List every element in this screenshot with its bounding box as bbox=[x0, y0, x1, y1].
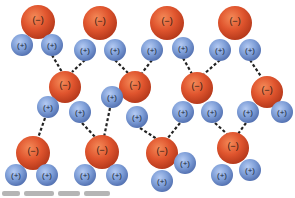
negative-charge-label: (−) bbox=[96, 145, 107, 155]
positive-charge-label: (+) bbox=[107, 93, 117, 102]
positive-charge-label: (+) bbox=[157, 177, 167, 186]
figure-caption-illegible bbox=[2, 188, 122, 198]
positive-charge-label: (+) bbox=[217, 171, 227, 180]
water-molecule-bot-4: (−)(+)(+) bbox=[211, 132, 261, 186]
hydrogen-bond-dashed-line bbox=[142, 60, 152, 73]
hydrogen-bond-dashed-line bbox=[183, 58, 192, 74]
hydrogen-bond-dashed-line bbox=[250, 60, 262, 78]
positive-charge-label: (+) bbox=[80, 46, 90, 55]
blurred-caption-word bbox=[24, 191, 54, 196]
positive-charge-label: (+) bbox=[178, 44, 188, 53]
negative-charge-label: (−) bbox=[94, 16, 105, 26]
negative-charge-label: (−) bbox=[129, 80, 140, 90]
blurred-caption-word bbox=[2, 191, 20, 196]
positive-charge-label: (+) bbox=[132, 113, 142, 122]
water-molecule-bot-2: (−)(+)(+) bbox=[74, 135, 128, 186]
water-molecule-top-3: (−)(+)(+) bbox=[141, 6, 194, 61]
blurred-caption-word bbox=[84, 191, 110, 196]
water-molecule-mid-3: (−)(+)(+) bbox=[172, 72, 223, 123]
water-molecule-mid-1: (−)(+)(+) bbox=[37, 71, 91, 123]
blurred-caption-word bbox=[58, 191, 80, 196]
positive-charge-label: (+) bbox=[47, 41, 57, 50]
positive-charge-label: (+) bbox=[277, 108, 287, 117]
hydrogen-bond-dashed-line bbox=[82, 123, 96, 138]
positive-charge-label: (+) bbox=[180, 159, 190, 168]
hydrogen-bond-dashed-line bbox=[140, 128, 157, 139]
positive-charge-label: (+) bbox=[243, 108, 253, 117]
positive-charge-label: (+) bbox=[112, 171, 122, 180]
negative-charge-label: (−) bbox=[59, 80, 70, 90]
water-molecule-top-4: (−)(+)(+) bbox=[209, 6, 261, 61]
positive-charge-label: (+) bbox=[245, 46, 255, 55]
hydrogen-bond-dashed-line bbox=[215, 123, 227, 134]
positive-charge-label: (+) bbox=[207, 108, 217, 117]
water-molecule-top-1: (−)(+)(+) bbox=[11, 5, 63, 56]
water-molecule-bot-1: (−)(+)(+) bbox=[5, 136, 58, 186]
hydrogen-bond-dashed-line bbox=[167, 123, 180, 139]
water-molecule-mid-4: (−)(+)(+) bbox=[237, 76, 293, 123]
negative-charge-label: (−) bbox=[32, 15, 43, 25]
positive-charge-label: (+) bbox=[43, 103, 53, 112]
hydrogen-bond-dashed-line bbox=[115, 60, 128, 73]
hydrogen-bond-dashed-line bbox=[52, 55, 62, 72]
negative-charge-label: (−) bbox=[227, 141, 238, 151]
water-molecule-top-2: (−)(+)(+) bbox=[74, 6, 126, 61]
water-molecules-layer: (−)(+)(+)(−)(+)(+)(−)(+)(+)(−)(+)(+)(−)(… bbox=[5, 5, 293, 192]
positive-charge-label: (+) bbox=[75, 108, 85, 117]
water-molecule-bot-3: (−)(+)(+) bbox=[146, 137, 196, 192]
positive-charge-label: (+) bbox=[80, 171, 90, 180]
positive-charge-label: (+) bbox=[245, 166, 255, 175]
positive-charge-label: (+) bbox=[147, 46, 157, 55]
positive-charge-label: (+) bbox=[11, 171, 21, 180]
hydrogen-bond-dashed-line bbox=[104, 108, 110, 137]
hydrogen-bond-dashed-line bbox=[204, 60, 220, 74]
water-hydrogen-bond-diagram: (−)(+)(+)(−)(+)(+)(−)(+)(+)(−)(+)(+)(−)(… bbox=[0, 0, 295, 198]
positive-charge-label: (+) bbox=[17, 41, 27, 50]
positive-charge-label: (+) bbox=[178, 108, 188, 117]
positive-charge-label: (+) bbox=[110, 46, 120, 55]
negative-charge-label: (−) bbox=[27, 146, 38, 156]
negative-charge-label: (−) bbox=[229, 16, 240, 26]
negative-charge-label: (−) bbox=[156, 146, 167, 156]
positive-charge-label: (+) bbox=[215, 46, 225, 55]
positive-charge-label: (+) bbox=[42, 171, 52, 180]
hydrogen-bond-dashed-line bbox=[72, 60, 85, 72]
negative-charge-label: (−) bbox=[191, 81, 202, 91]
hydrogen-bond-dashed-line bbox=[38, 118, 45, 138]
negative-charge-label: (−) bbox=[261, 85, 272, 95]
negative-charge-label: (−) bbox=[161, 16, 172, 26]
hydrogen-bond-dashed-line bbox=[238, 123, 246, 134]
